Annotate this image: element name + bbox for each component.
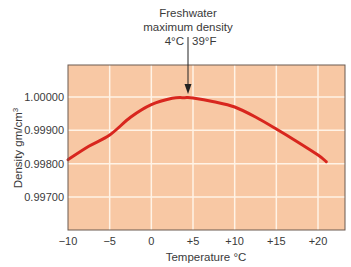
- x-tick-label: +20: [309, 235, 328, 247]
- y-tick-label: 1.00000: [24, 91, 64, 103]
- x-tick-label: 0: [148, 235, 154, 247]
- annotation-line2: maximum density: [143, 21, 233, 33]
- annotation-celsius: 4°C: [165, 35, 184, 47]
- y-axis-ticks: 0.997000.998000.999001.00000: [24, 91, 64, 203]
- density-chart: Freshwater maximum density 4°C 39°F 0.99…: [0, 0, 351, 267]
- x-tick-label: −5: [103, 235, 116, 247]
- x-axis-ticks: −10−50+5+10+15+20: [59, 235, 328, 247]
- x-axis-label: Temperature °C: [166, 251, 247, 263]
- y-tick-label: 0.99700: [24, 191, 64, 203]
- x-tick-label: +10: [225, 235, 244, 247]
- y-tick-label: 0.99900: [24, 124, 64, 136]
- x-tick-label: −10: [59, 235, 78, 247]
- annotation-line1: Freshwater: [159, 7, 217, 19]
- y-axis-label: Density gm/cm3: [11, 107, 24, 188]
- x-tick-label: +5: [187, 235, 200, 247]
- x-tick-label: +15: [267, 235, 286, 247]
- y-tick-label: 0.99800: [24, 158, 64, 170]
- annotation-fahrenheit: 39°F: [192, 35, 216, 47]
